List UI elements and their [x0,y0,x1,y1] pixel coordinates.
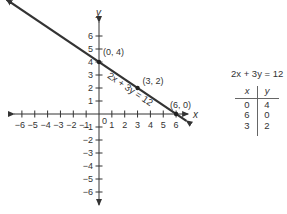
table-cell-y: 0 [257,110,277,121]
table-header-x: x [237,86,257,97]
y-tick-label: 6 [88,31,93,41]
table-cell-x: 6 [237,110,257,121]
x-tick-label: 3 [135,120,140,130]
y-tick-label: −3 [83,148,93,158]
y-tick-label: −5 [83,174,93,184]
y-tick-label: −4 [83,161,93,171]
y-tick-label: 5 [88,44,93,54]
y-tick-label: 1 [88,96,93,106]
x-tick-label: 5 [161,120,166,130]
x-tick-label: 2 [122,120,127,130]
table-divider-horizontal [235,98,279,99]
y-axis-label: y [95,7,102,18]
y-tick-label: 3 [88,70,93,80]
x-tick-label: −2 [66,120,76,130]
x-tick-label: −3 [53,120,63,130]
x-axis-label: x [192,109,199,120]
data-point-label: (3, 2) [143,76,164,86]
origin-label: 0 [102,116,107,126]
y-tick-label: −2 [83,135,93,145]
x-tick-label: 1 [109,120,114,130]
data-point [174,112,178,116]
table-cell-x: 3 [237,121,257,132]
y-tick-label: 2 [88,83,93,93]
x-tick-label: 4 [148,120,153,130]
y-tick-label: −6 [83,187,93,197]
series-line [6,0,186,121]
y-tick-label: −1 [83,122,93,132]
table-cell-y: 2 [257,121,277,132]
x-tick-label: −5 [28,120,38,130]
data-point-label: (6, 0) [170,100,191,110]
x-tick-label: −4 [40,120,50,130]
x-tick-label: −6 [15,120,25,130]
table-grid: x y 0 4 6 0 3 2 [237,86,277,131]
table-title: 2x + 3y = 12 [231,68,283,79]
table-header-y: y [257,86,277,97]
data-point [97,60,101,64]
table-divider-vertical [257,86,258,136]
x-tick-label: 6 [174,120,179,130]
data-point-label: (0, 4) [103,47,124,57]
